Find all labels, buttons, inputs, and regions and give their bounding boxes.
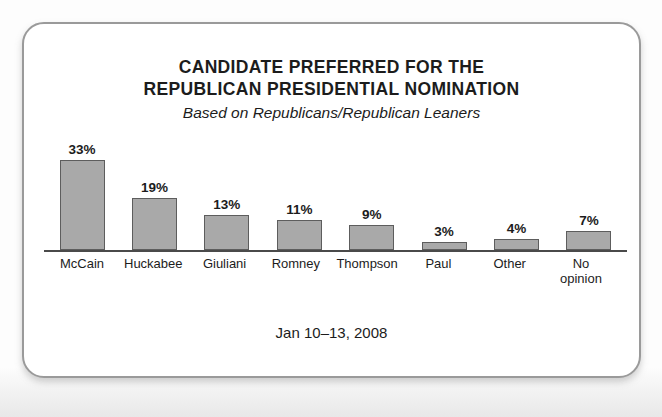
category-label-line: Other (476, 256, 544, 271)
bar-value-label: 13% (213, 198, 240, 212)
category-label: Other (476, 256, 544, 286)
category-label: Romney (262, 256, 330, 286)
chart-card: CANDIDATE PREFERRED FOR THE REPUBLICAN P… (22, 22, 641, 378)
x-axis-line (44, 250, 627, 252)
category-label: Giuliani (191, 256, 259, 286)
category-label-line: Huckabee (119, 256, 187, 271)
bar (422, 242, 467, 250)
bar (132, 198, 177, 250)
chart-container: CANDIDATE PREFERRED FOR THE REPUBLICAN P… (24, 24, 639, 376)
category-label: Noopinion (547, 256, 615, 286)
bar (494, 239, 539, 250)
bar-column: 13% (193, 132, 261, 250)
bar (204, 215, 249, 250)
bar-value-label: 33% (68, 143, 95, 157)
category-label: Thompson (333, 256, 401, 286)
category-label-line: Paul (404, 256, 472, 271)
chart-footnote: Jan 10–13, 2008 (24, 324, 639, 341)
bar (60, 160, 105, 250)
category-label: Paul (404, 256, 472, 286)
category-label-line: Romney (262, 256, 330, 271)
bar-column: 33% (48, 132, 116, 250)
bar (277, 220, 322, 250)
title-block: CANDIDATE PREFERRED FOR THE REPUBLICAN P… (24, 56, 639, 123)
bar-value-label: 3% (434, 225, 454, 239)
bar-value-label: 19% (141, 181, 168, 195)
bar (566, 231, 611, 250)
category-label-line: Thompson (333, 256, 401, 271)
category-label-line: McCain (48, 256, 116, 271)
bar-column: 9% (338, 132, 406, 250)
bar-series: 33%19%13%11%9%3%4%7% (48, 132, 623, 250)
bar-column: 19% (120, 132, 188, 250)
bar-value-label: 4% (507, 222, 527, 236)
x-axis-category-labels: McCainHuckabeeGiulianiRomneyThompsonPaul… (48, 256, 615, 286)
bar-value-label: 11% (286, 203, 312, 217)
plot-area: 33%19%13%11%9%3%4%7% (44, 132, 627, 252)
category-label-line: No (547, 256, 615, 271)
category-label: McCain (48, 256, 116, 286)
bar (349, 225, 394, 250)
bar-column: 7% (555, 132, 623, 250)
bar-value-label: 9% (362, 208, 382, 222)
chart-title-line-1: CANDIDATE PREFERRED FOR THE (24, 56, 639, 78)
category-label-line: Giuliani (191, 256, 259, 271)
bar-column: 4% (483, 132, 551, 250)
chart-subtitle: Based on Republicans/Republican Leaners (24, 102, 639, 123)
bar-column: 3% (410, 132, 478, 250)
category-label: Huckabee (119, 256, 187, 286)
bar-value-label: 7% (579, 214, 599, 228)
chart-title-line-2: REPUBLICAN PRESIDENTIAL NOMINATION (24, 78, 639, 100)
category-label-line: opinion (547, 271, 615, 286)
bar-column: 11% (265, 132, 333, 250)
